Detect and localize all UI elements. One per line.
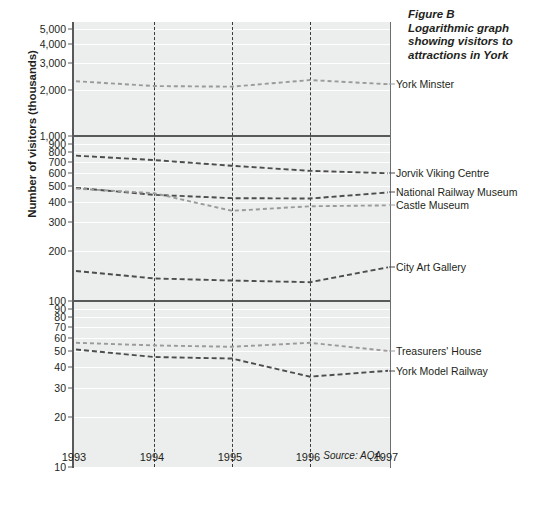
x-tick-label-1993: 1993: [44, 451, 104, 463]
series-tick-treasurers-house: [389, 350, 395, 351]
figure-caption-line-2: Logarithmic graph: [408, 22, 554, 36]
y-tick-mark-10: [68, 467, 72, 468]
figure-caption: Figure B Logarithmic graph showing visit…: [408, 8, 554, 62]
y-tick-label-600: 600: [18, 167, 66, 178]
y-tick-label-50: 50: [18, 345, 66, 356]
series-label-york-minster: York Minster: [396, 79, 454, 90]
y-tick-mark-70: [68, 326, 72, 327]
y-tick-mark-3000: [68, 62, 72, 63]
series-tick-jorvik-viking-centre: [389, 173, 395, 174]
y-tick-mark-40: [68, 367, 72, 368]
series-label-castle-museum: Castle Museum: [396, 200, 469, 211]
x-tick-label-1995: 1995: [200, 451, 260, 463]
series-tick-castle-museum: [389, 205, 395, 206]
series-label-national-railway-museum: National Railway Museum: [396, 187, 517, 198]
series-label-york-model-railway: York Model Railway: [396, 365, 488, 376]
y-tick-mark-600: [68, 172, 72, 173]
series-tick-national-railway-museum: [389, 192, 395, 193]
y-tick-label-2000: 2,000: [18, 84, 66, 95]
y-tick-label-3000: 3,000: [18, 57, 66, 68]
figure-container: Figure B Logarithmic graph showing visit…: [0, 0, 558, 510]
y-tick-mark-2000: [68, 89, 72, 90]
plot-area: Source: AQA.: [72, 22, 391, 468]
y-tick-label-300: 300: [18, 217, 66, 228]
y-tick-mark-700: [68, 161, 72, 162]
series-tick-city-art-gallery: [389, 267, 395, 268]
y-tick-mark-500: [68, 185, 72, 186]
series-label-jorvik-viking-centre: Jorvik Viking Centre: [396, 168, 489, 179]
y-tick-mark-30: [68, 387, 72, 388]
y-tick-mark-60: [68, 337, 72, 338]
x-tick-label-1994: 1994: [122, 451, 182, 463]
y-tick-mark-200: [68, 251, 72, 252]
series-label-city-art-gallery: City Art Gallery: [396, 262, 466, 273]
y-tick-mark-100: [68, 301, 72, 302]
vertical-gridline-1996: [310, 22, 311, 467]
y-tick-label-500: 500: [18, 180, 66, 191]
y-tick-label-40: 40: [18, 362, 66, 373]
series-tick-york-minster: [389, 84, 395, 85]
figure-caption-line-1: Figure B: [408, 8, 554, 22]
y-tick-mark-4000: [68, 43, 72, 44]
figure-caption-line-4: attractions in York: [408, 49, 554, 63]
y-tick-label-400: 400: [18, 196, 66, 207]
y-tick-label-5000: 5,000: [18, 24, 66, 35]
y-tick-label-200: 200: [18, 246, 66, 257]
series-tick-york-model-railway: [389, 370, 395, 371]
series-label-treasurers-house: Treasurers' House: [396, 345, 482, 356]
y-tick-label-30: 30: [18, 382, 66, 393]
y-tick-label-60: 60: [18, 332, 66, 343]
vertical-gridline-1995: [232, 22, 233, 467]
y-tick-mark-1000: [68, 136, 72, 137]
y-tick-mark-400: [68, 201, 72, 202]
y-tick-mark-800: [68, 151, 72, 152]
y-tick-mark-5000: [68, 29, 72, 30]
x-tick-label-1997: 1997: [356, 451, 416, 463]
gridline-10: [74, 467, 390, 468]
y-tick-label-4000: 4,000: [18, 38, 66, 49]
y-tick-label-10: 10: [18, 462, 66, 473]
y-tick-mark-50: [68, 350, 72, 351]
y-tick-mark-900: [68, 143, 72, 144]
y-tick-mark-80: [68, 317, 72, 318]
x-tick-label-1996: 1996: [278, 451, 338, 463]
y-tick-mark-20: [68, 417, 72, 418]
figure-caption-line-3: showing visitors to: [408, 35, 554, 49]
y-tick-mark-90: [68, 308, 72, 309]
y-tick-mark-300: [68, 222, 72, 223]
vertical-gridline-1994: [154, 22, 155, 467]
y-tick-label-20: 20: [18, 412, 66, 423]
